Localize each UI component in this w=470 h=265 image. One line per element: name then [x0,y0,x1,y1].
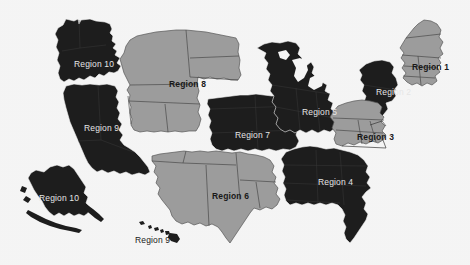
region-3-shape[interactable] [330,100,386,148]
us-regions-map: Region 10 Region 9 Region 8 Region 7 Reg… [0,0,470,265]
region-4-shape[interactable] [281,146,371,243]
region-1-shape[interactable] [400,20,443,86]
region-10-alaska-shape[interactable] [20,165,104,233]
map-vector-layer [0,0,470,265]
region-10-northwest-shape[interactable] [55,19,121,82]
region-6-shape[interactable] [152,151,280,243]
region-9-hawaii-shape[interactable] [139,221,180,243]
